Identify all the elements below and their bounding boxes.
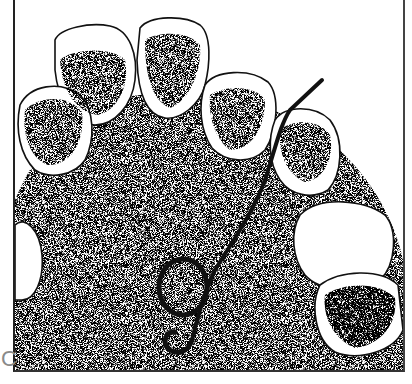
dental-arch-illustration: [0, 0, 412, 384]
figure-label: C: [1, 348, 17, 370]
